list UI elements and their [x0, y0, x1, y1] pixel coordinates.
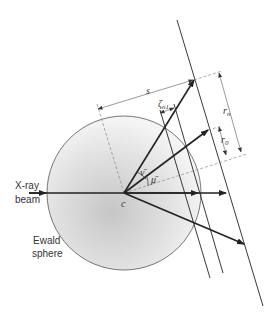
ewald-sphere-diagram: X-ray beam Ewald sphere c s ζn1 rn r0 ν̄… — [0, 0, 275, 327]
ewald-sphere-label-1: Ewald — [33, 235, 60, 246]
dashed-top — [194, 71, 222, 80]
s-label: s — [146, 85, 150, 96]
zeta-label: ζn1 — [158, 98, 169, 111]
ewald-sphere-label-2: sphere — [32, 248, 63, 259]
xray-beam-label-2: beam — [15, 194, 40, 205]
xray-beam-label-1: X-ray — [15, 180, 39, 191]
center-label: c — [121, 198, 126, 209]
rn-label: rn — [223, 105, 231, 118]
r0-label: r0 — [221, 134, 229, 147]
